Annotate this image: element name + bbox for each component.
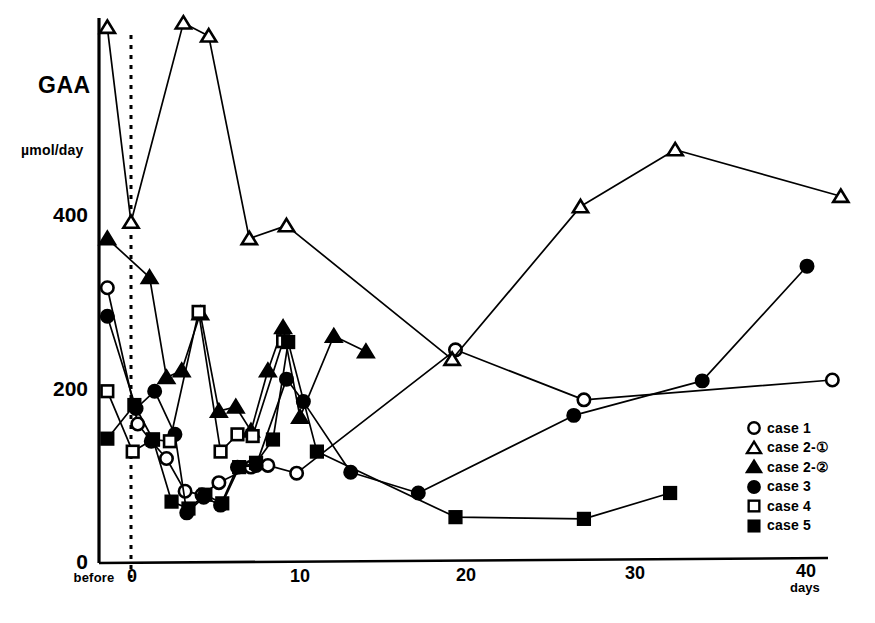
legend-label: case 2-①: [767, 439, 829, 455]
legend-label: case 3: [767, 478, 811, 494]
data-point-marker: [833, 190, 848, 202]
data-point-marker: [282, 336, 294, 348]
data-point-marker: [326, 329, 341, 341]
data-point-marker: [450, 511, 462, 523]
data-point-marker: [213, 476, 225, 488]
legend-label: case 1: [767, 420, 811, 436]
legend-item-case-1[interactable]: case 1: [745, 418, 875, 438]
data-point-marker: [148, 385, 160, 397]
data-point-marker: [100, 232, 115, 244]
series-case-2-1: [100, 16, 849, 365]
data-point-marker: [147, 434, 159, 446]
x-tick-30: 30: [618, 563, 652, 584]
y-tick-200: 200: [30, 377, 88, 401]
data-point-marker: [164, 435, 176, 447]
data-point-marker: [276, 321, 291, 333]
data-point-marker: [573, 200, 588, 212]
data-point-marker: [179, 485, 191, 497]
data-point-marker: [127, 446, 139, 458]
x-tick-0: 0: [121, 566, 143, 587]
data-point-marker: [101, 282, 113, 294]
data-point-marker: [193, 306, 205, 318]
data-point-marker: [311, 446, 323, 458]
legend-item-case-2-1[interactable]: case 2-①: [745, 438, 875, 458]
data-point-marker: [292, 410, 307, 422]
data-point-marker: [233, 461, 245, 473]
data-point-marker: [250, 457, 262, 469]
legend-label: case 4: [767, 498, 811, 514]
plot-area: [0, 0, 875, 623]
data-point-marker: [578, 394, 590, 406]
data-point-marker: [101, 310, 113, 322]
data-point-marker: [801, 260, 813, 272]
data-point-marker: [242, 232, 257, 244]
legend-label: case 2-②: [767, 459, 829, 475]
data-point-marker: [159, 371, 174, 383]
data-point-marker: [166, 496, 178, 508]
data-point-marker: [826, 374, 838, 386]
data-point-marker: [578, 513, 590, 525]
data-point-marker: [200, 489, 212, 501]
x-axis-label: days: [790, 580, 820, 595]
data-point-marker: [358, 345, 373, 357]
y-tick-400: 400: [30, 203, 88, 227]
data-point-marker: [160, 452, 172, 464]
data-point-marker: [123, 215, 138, 227]
legend-marker-filled-square-icon: [745, 516, 767, 535]
data-point-marker: [216, 498, 228, 510]
data-point-marker: [232, 429, 244, 441]
data-point-marker: [290, 467, 302, 479]
data-point-marker: [568, 409, 580, 421]
data-point-marker: [201, 29, 216, 41]
x-tick-40: 40: [789, 561, 823, 582]
x-tick-10: 10: [283, 566, 317, 587]
data-point-marker: [183, 503, 195, 515]
data-point-marker: [267, 434, 279, 446]
data-point-marker: [102, 433, 114, 445]
data-series-group: [100, 16, 849, 525]
data-point-marker: [696, 375, 708, 387]
legend-marker-open-circle-icon: [745, 418, 767, 437]
chart-legend: case 1case 2-①case 2-②case 3case 4case 5: [745, 418, 875, 535]
data-point-marker: [215, 446, 227, 458]
legend-marker-filled-triangle-icon: [745, 457, 767, 476]
series-line: [107, 23, 841, 359]
data-point-marker: [228, 400, 243, 412]
series-line: [107, 288, 832, 495]
x-tick-20: 20: [449, 565, 483, 586]
series-line: [107, 266, 807, 513]
data-point-marker: [102, 385, 114, 397]
legend-item-case-2-2[interactable]: case 2-②: [745, 457, 875, 477]
data-point-marker: [668, 143, 683, 155]
legend-marker-filled-circle-icon: [745, 477, 767, 496]
legend-marker-open-square-icon: [745, 496, 767, 515]
data-point-marker: [247, 430, 259, 442]
data-point-marker: [279, 219, 294, 231]
legend-marker-open-triangle-icon: [745, 438, 767, 457]
data-point-marker: [100, 20, 115, 32]
legend-label: case 5: [767, 517, 811, 533]
data-point-marker: [129, 399, 141, 411]
legend-item-case-5[interactable]: case 5: [745, 516, 875, 536]
x-axis-line: [99, 558, 828, 563]
data-point-marker: [664, 487, 676, 499]
chart-figure: GAA µmol/day 400 200 0 before 0 10 20 30…: [0, 0, 875, 623]
data-point-marker: [176, 16, 191, 28]
x-tick-before: before: [64, 570, 124, 585]
legend-item-case-4[interactable]: case 4: [745, 496, 875, 516]
legend-item-case-3[interactable]: case 3: [745, 477, 875, 497]
